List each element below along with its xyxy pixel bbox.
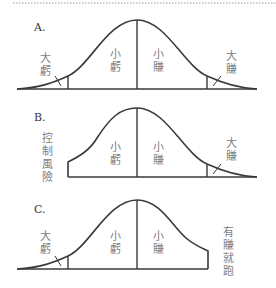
control-risk-char-3: 風 (42, 158, 53, 171)
small-loss-char-1-a: 小 (110, 48, 121, 61)
small-loss-char-2-c: 虧 (110, 242, 121, 256)
panel-a: A. 大 虧 小 虧 小 賺 大 賺 (17, 20, 257, 89)
big-gain-char-2-b: 賺 (226, 149, 237, 163)
panel-label-c: C. (34, 203, 46, 216)
panel-c: C. 大 虧 小 虧 小 賺 有 賺 就 跑 (17, 200, 234, 278)
panel-label-b: B. (34, 111, 46, 124)
small-gain-char-1-b: 小 (153, 141, 164, 154)
bell-curve-diagram: A. 大 虧 小 虧 小 賺 大 賺 B. 控 制 風 險 小 虧 小 賺 大 (0, 0, 276, 288)
big-gain-char-2-a: 賺 (226, 62, 237, 76)
control-risk-char-1: 控 (42, 131, 53, 145)
big-loss-char-2-a: 虧 (40, 64, 51, 78)
big-gain-char-1-a: 大 (226, 49, 237, 63)
take-profit-char-3: 就 (223, 251, 234, 265)
panel-b: B. 控 制 風 險 小 虧 小 賺 大 賺 (34, 108, 257, 184)
take-profit-char-1: 有 (223, 225, 234, 239)
big-loss-char-1-c: 大 (40, 229, 51, 243)
small-gain-char-1-a: 小 (153, 48, 164, 61)
small-loss-char-1-c: 小 (110, 230, 121, 243)
big-loss-char-2-c: 虧 (40, 242, 51, 256)
big-loss-char-1-a: 大 (40, 51, 51, 65)
small-gain-char-2-a: 賺 (153, 60, 164, 74)
small-loss-char-2-a: 虧 (110, 60, 121, 74)
control-risk-char-4: 險 (42, 170, 53, 184)
big-gain-char-1-b: 大 (226, 136, 237, 150)
small-loss-char-1-b: 小 (110, 141, 121, 154)
panel-label-a: A. (33, 21, 45, 34)
small-gain-char-2-c: 賺 (153, 242, 164, 256)
take-profit-char-4: 跑 (223, 264, 234, 278)
small-loss-char-2-b: 虧 (110, 153, 121, 167)
control-risk-char-2: 制 (42, 145, 53, 158)
small-gain-char-1-c: 小 (153, 230, 164, 243)
small-gain-char-2-b: 賺 (153, 153, 164, 167)
take-profit-char-2: 賺 (223, 238, 234, 252)
